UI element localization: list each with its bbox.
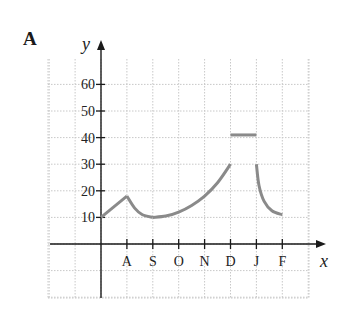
curve-decay-to-F [256, 164, 282, 215]
axis-labels: 102030405060ASONDJFyx [80, 34, 328, 271]
y-tick-label: 60 [81, 77, 95, 92]
curve-rise [101, 196, 127, 217]
x-tick-label: F [278, 254, 286, 269]
x-tick-label: S [149, 254, 157, 269]
x-axis-label: x [319, 251, 328, 271]
y-tick-label: 10 [81, 210, 95, 225]
y-tick-label: 30 [81, 157, 95, 172]
y-axis-arrow-icon [97, 40, 105, 50]
chart: 102030405060ASONDJFyx [0, 0, 350, 316]
y-tick-label: 40 [81, 131, 95, 146]
x-tick-label: D [225, 254, 235, 269]
x-tick-label: J [254, 254, 260, 269]
x-axis-arrow-icon [316, 240, 326, 248]
x-tick-label: N [200, 254, 210, 269]
x-tick-label: O [174, 254, 184, 269]
data-curves [101, 135, 282, 217]
curve-growth-to-D [153, 164, 231, 217]
curve-decay-to-S [127, 196, 153, 217]
y-axis-label: y [80, 34, 90, 54]
y-tick-label: 50 [81, 104, 95, 119]
y-tick-label: 20 [81, 184, 95, 199]
x-tick-label: A [122, 254, 133, 269]
